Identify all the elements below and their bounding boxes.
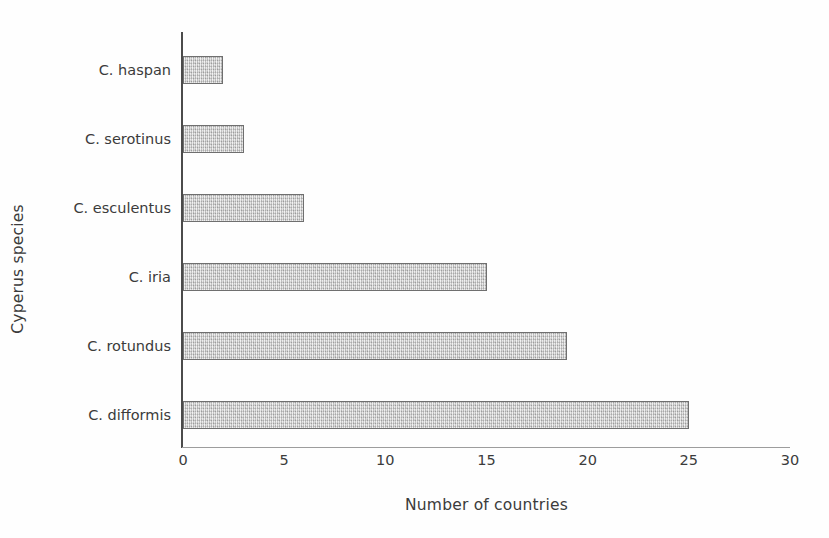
category-label: C. haspan bbox=[99, 56, 171, 84]
category-label: C. esculentus bbox=[73, 194, 171, 222]
value-tick-label: 10 bbox=[376, 452, 394, 468]
value-tick-label: 30 bbox=[781, 452, 799, 468]
bar bbox=[183, 263, 487, 291]
category-label: C. serotinus bbox=[85, 125, 171, 153]
value-tick-label: 20 bbox=[578, 452, 596, 468]
category-label: C. rotundus bbox=[87, 332, 171, 360]
bar bbox=[183, 332, 567, 360]
value-tick-label: 0 bbox=[178, 452, 187, 468]
bar-chart-figure: Cyperus species C. difformisC. rotundusC… bbox=[0, 0, 829, 538]
x-axis-title: Number of countries bbox=[183, 496, 790, 514]
value-axis-line bbox=[181, 32, 183, 448]
bar bbox=[183, 194, 304, 222]
category-label: C. iria bbox=[129, 263, 171, 291]
value-tick-label: 15 bbox=[477, 452, 495, 468]
category-axis-line bbox=[182, 447, 790, 448]
value-tick-label: 25 bbox=[680, 452, 698, 468]
value-tick-label: 5 bbox=[280, 452, 289, 468]
category-axis-labels: C. difformisC. rotundusC. iriaC. esculen… bbox=[55, 32, 177, 448]
category-label: C. difformis bbox=[88, 401, 171, 429]
y-axis-title: Cyperus species bbox=[0, 0, 36, 538]
bar bbox=[183, 401, 689, 429]
plot-area bbox=[183, 32, 790, 448]
bar bbox=[183, 125, 244, 153]
bar bbox=[183, 56, 223, 84]
value-axis-tick-labels: 051015202530 bbox=[183, 452, 790, 474]
